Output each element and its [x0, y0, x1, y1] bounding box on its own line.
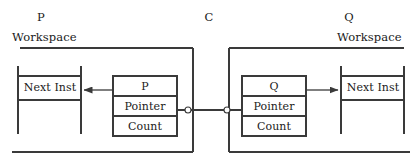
left-junction-node [185, 107, 191, 113]
right-junction-node [224, 107, 230, 113]
q-descriptor-count-cell: Count [257, 121, 291, 132]
label-process-q: Q [344, 12, 354, 24]
right-next-inst-frame [341, 66, 404, 134]
left-next-inst-frame [18, 66, 81, 134]
right-next-inst-label: Next Inst [347, 82, 400, 93]
left-next-inst-label: Next Inst [24, 82, 77, 93]
label-process-p: P [37, 12, 45, 24]
p-descriptor-pointer-cell: Pointer [124, 101, 165, 112]
q-descriptor-pointer-cell: Pointer [253, 101, 294, 112]
p-descriptor-count-cell: Count [128, 121, 162, 132]
p-descriptor-name-cell: P [141, 81, 149, 92]
left-workspace-label: Workspace [12, 32, 77, 44]
right-workspace-label: Workspace [337, 32, 402, 44]
shared-object-diagram: P C Q Workspace Workspace Next Inst Next… [0, 0, 420, 164]
q-descriptor-name-cell: Q [269, 81, 278, 92]
label-shared-object-c: C [205, 12, 214, 24]
